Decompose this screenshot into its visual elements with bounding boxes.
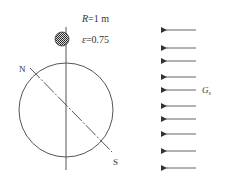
satellite-sphere [55, 32, 69, 46]
ns-axis [30, 68, 112, 152]
emissivity-label: ε=0.75 [82, 34, 109, 45]
diagram-canvas: R=1 m ε=0.75 N S Gs [0, 0, 225, 185]
south-label: S [113, 157, 118, 167]
north-label: N [19, 64, 26, 74]
radius-label: R=1 m [81, 13, 109, 24]
solar-irradiation-arrows [166, 30, 196, 168]
irradiation-label: Gs [202, 85, 212, 96]
